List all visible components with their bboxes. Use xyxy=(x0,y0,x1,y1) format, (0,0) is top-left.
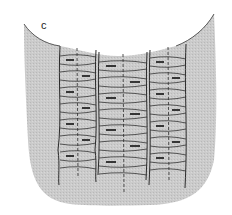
smocked-fabric-illustration xyxy=(0,0,232,215)
panel-label: c xyxy=(41,19,47,31)
fabric-shape xyxy=(24,14,216,206)
